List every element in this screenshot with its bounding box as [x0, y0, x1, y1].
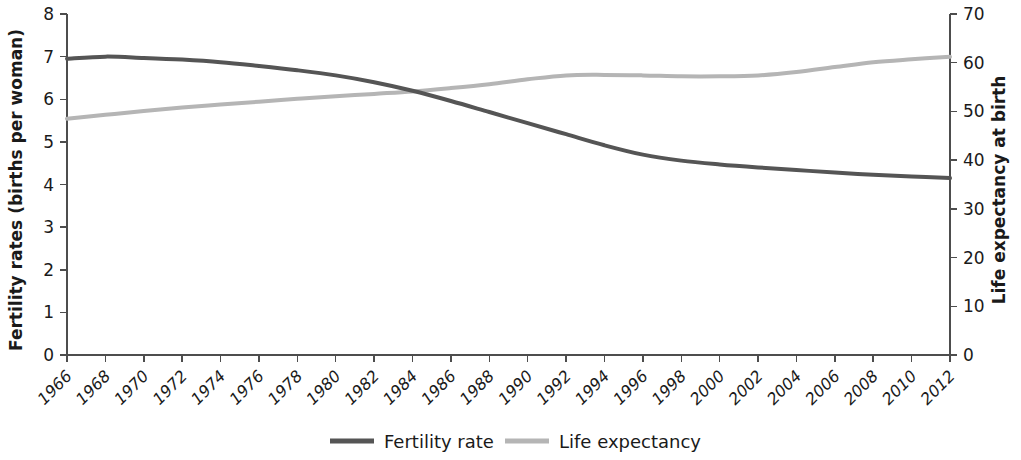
x-axis-tick-label: 1994 [571, 366, 613, 408]
chart-container: Fertility rates (births per woman) Life … [0, 0, 1021, 460]
left-axis-title: Fertility rates (births per woman) [6, 29, 26, 351]
right-axis-tick-label: 60 [963, 53, 985, 73]
x-axis-tick-label: 2004 [763, 366, 805, 408]
left-axis-tick-label: 6 [43, 89, 54, 109]
x-axis-tick-label: 2010 [878, 366, 920, 408]
x-axis-tick-label: 1986 [418, 366, 460, 408]
left-axis: 012345678 [43, 4, 67, 365]
left-axis-tick-label: 0 [43, 345, 54, 365]
x-axis-tick-label: 1976 [226, 366, 268, 408]
left-axis-tick-label: 8 [43, 4, 54, 24]
x-axis-tick-label: 1992 [533, 366, 575, 408]
x-axis: 1966196819701972197419761978198019821984… [34, 355, 959, 409]
right-axis-title: Life expectancy at birth [989, 76, 1009, 305]
right-axis-tick-label: 30 [963, 199, 985, 219]
left-axis-tick-label: 4 [43, 175, 54, 195]
x-axis-tick-label: 1990 [494, 366, 536, 408]
plot-area-series [67, 57, 950, 178]
x-axis-tick-label: 2002 [725, 366, 767, 408]
x-axis-tick-label: 2006 [801, 366, 843, 408]
left-axis-tick-label: 7 [43, 47, 54, 67]
right-axis-tick-label: 20 [963, 248, 985, 268]
right-axis-title-group: Life expectancy at birth [989, 76, 1009, 305]
x-axis-tick-label: 2012 [917, 366, 959, 408]
legend-label-0: Fertility rate [384, 431, 494, 452]
series-line-life-expectancy [67, 57, 950, 119]
x-axis-tick-label: 1996 [609, 366, 651, 408]
dual-axis-line-chart: Fertility rates (births per woman) Life … [0, 0, 1021, 460]
x-axis-tick-label: 1970 [110, 366, 152, 408]
right-axis-tick-label: 0 [963, 345, 974, 365]
x-axis-tick-label: 1966 [34, 366, 76, 408]
x-axis-tick-label: 1978 [264, 366, 306, 408]
x-axis-tick-label: 1984 [379, 366, 421, 408]
left-axis-title-group: Fertility rates (births per woman) [6, 29, 26, 351]
x-axis-tick-label: 1972 [149, 366, 191, 408]
x-axis-tick-label: 2008 [840, 366, 882, 408]
right-axis-tick-label: 40 [963, 150, 985, 170]
right-axis-tick-label: 70 [963, 4, 985, 24]
right-axis-tick-label: 50 [963, 101, 985, 121]
x-axis-tick-label: 2000 [686, 366, 728, 408]
left-axis-tick-label: 1 [43, 302, 54, 322]
left-axis-tick-label: 3 [43, 217, 54, 237]
chart-legend: Fertility rateLife expectancy [330, 431, 701, 452]
right-axis: 010203040506070 [950, 4, 985, 365]
left-axis-tick-label: 5 [43, 132, 54, 152]
right-axis-tick-label: 10 [963, 296, 985, 316]
x-axis-tick-label: 1968 [72, 366, 114, 408]
x-axis-tick-label: 1988 [456, 366, 498, 408]
x-axis-tick-label: 1980 [302, 366, 344, 408]
left-axis-tick-label: 2 [43, 260, 54, 280]
x-axis-tick-label: 1982 [341, 366, 383, 408]
x-axis-tick-label: 1998 [648, 366, 690, 408]
series-line-fertility-rate [67, 57, 950, 178]
x-axis-tick-label: 1974 [187, 366, 229, 408]
legend-label-1: Life expectancy [559, 431, 701, 452]
